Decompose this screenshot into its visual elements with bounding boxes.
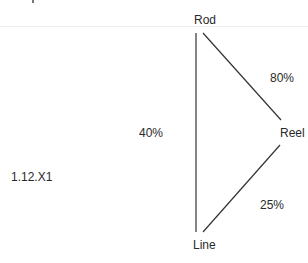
edge-label-reel-line: 25% (260, 198, 284, 212)
node-line: Line (193, 238, 216, 252)
node-reel: Reel (280, 126, 305, 140)
node-rod: Rod (194, 13, 216, 27)
figure-id-label: 1.12.X1 (11, 170, 52, 184)
edge-reel-line (203, 145, 280, 232)
edge-label-rod-reel: 80% (270, 71, 294, 85)
edge-label-rod-line: 40% (139, 126, 163, 140)
